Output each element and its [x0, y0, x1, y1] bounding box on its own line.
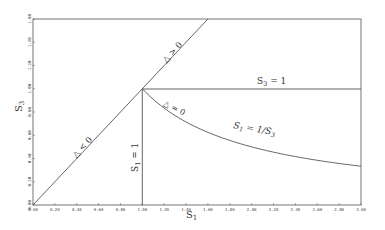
- x-tick-label: 2.40: [291, 207, 301, 212]
- y-tick-label: 1.20: [27, 60, 32, 70]
- y-tick-label: 0.80: [27, 107, 32, 117]
- x-tick-label: 1.00: [138, 207, 148, 212]
- y-tick-label: 0.20: [27, 176, 32, 186]
- x-tick-label: 0.20: [50, 207, 60, 212]
- y-tick-label: 0.00: [27, 200, 32, 210]
- x-tick-label: 1.80: [225, 207, 235, 212]
- chart-svg: 0.000.200.400.600.801.001.201.401.601.80…: [0, 0, 385, 230]
- s3-eq-1-label: S3 = 1: [257, 76, 286, 88]
- x-tick-label: 2.00: [247, 207, 257, 212]
- x-tick-label: 2.60: [312, 207, 322, 212]
- y-tick-label: 1.40: [27, 37, 32, 47]
- x-axis-label: S1: [186, 209, 197, 222]
- y-tick-label: 1.00: [27, 83, 32, 93]
- x-tick-label: 1.60: [203, 207, 213, 212]
- y-tick-label: 0.40: [27, 153, 32, 163]
- x-tick-label: 2.20: [269, 207, 279, 212]
- s1-inverse-s3-label: S1 = 1/S3: [232, 120, 276, 139]
- x-tick-label: 0.40: [72, 207, 82, 212]
- y-tick-label: 1.60: [27, 14, 32, 24]
- plot-frame: [33, 19, 361, 205]
- x-axis-ticks: 0.000.200.400.600.801.001.201.401.601.80…: [28, 203, 366, 212]
- x-tick-label: 2.80: [334, 207, 344, 212]
- x-tick-label: 1.20: [159, 207, 169, 212]
- y-axis-label: S3: [13, 101, 26, 112]
- chart: 0.000.200.400.600.801.001.201.401.601.80…: [0, 0, 385, 230]
- s1-eq-1-label: S1 = 1: [130, 143, 142, 172]
- delta-zero-label: △ = 0: [162, 99, 187, 117]
- y-tick-label: 0.60: [27, 130, 32, 140]
- delta-negative-label: △ < 0: [70, 135, 94, 160]
- x-tick-label: 0.60: [94, 207, 104, 212]
- x-tick-label: 0.80: [116, 207, 126, 212]
- delta-positive-label: △ > 0: [160, 40, 184, 65]
- y-axis-ticks: 0.000.200.400.600.801.001.201.401.60: [27, 14, 35, 210]
- x-tick-label: 3.00: [356, 207, 366, 212]
